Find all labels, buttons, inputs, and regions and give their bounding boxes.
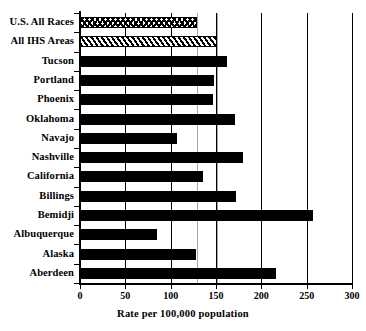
plot-area [80,13,352,283]
x-tick-50 [125,284,126,289]
y-tick-3 [74,71,79,72]
x-tick-label-0: 0 [60,290,100,301]
x-tick-label-300: 300 [332,290,366,301]
y-tick-0 [74,13,79,14]
y-axis-category-labels: U.S. All RacesAll IHS AreasTucsonPortlan… [0,13,78,283]
x-tick-label-150: 150 [196,290,236,301]
gridline-200 [261,13,262,283]
x-tick-100 [171,284,172,289]
reference-line-151 [217,13,218,283]
bar-aberdeen [80,268,276,279]
y-label-nashville: Nashville [0,152,74,163]
x-tick-250 [307,284,308,289]
x-tick-0 [80,284,81,289]
y-label-u-s-all-races: U.S. All Races [0,17,74,28]
y-tick-12 [74,244,79,245]
x-tick-label-50: 50 [105,290,145,301]
y-label-albuquerque: Albuquerque [0,229,74,240]
gridline-100 [171,13,172,283]
x-tick-label-100: 100 [151,290,191,301]
y-tick-4 [74,90,79,91]
bar-albuquerque [80,229,157,240]
y-label-alaska: Alaska [0,249,74,260]
bar-portland [80,75,214,86]
y-tick-11 [74,225,79,226]
y-tick-7 [74,148,79,149]
bar-bemidji [80,210,313,221]
x-tick-200 [261,284,262,289]
y-label-california: California [0,171,74,182]
y-label-navajo: Navajo [0,133,74,144]
bar-billings [80,191,236,202]
y-tick-8 [74,167,79,168]
x-tick-label-250: 250 [287,290,327,301]
gridline-250 [307,13,308,283]
bar-chart: U.S. All RacesAll IHS AreasTucsonPortlan… [0,0,366,331]
gridline-300 [352,13,353,283]
bar-nashville [80,152,243,163]
y-label-phoenix: Phoenix [0,94,74,105]
y-label-tucson: Tucson [0,56,74,67]
bar-california [80,171,203,182]
y-tick-end [74,283,79,284]
x-tick-label-200: 200 [241,290,281,301]
y-axis-line [79,11,81,285]
x-tick-150 [216,284,217,289]
bar-navajo [80,133,177,144]
bar-u-s-all-races [80,17,197,28]
bar-tucson [80,56,227,67]
y-tick-5 [74,109,79,110]
y-tick-9 [74,187,79,188]
y-tick-13 [74,264,79,265]
x-axis-title: Rate per 100,000 population [0,308,366,319]
bar-alaska [80,249,196,260]
y-tick-10 [74,206,79,207]
y-tick-2 [74,52,79,53]
y-label-aberdeen: Aberdeen [0,268,74,279]
reference-line-129 [197,13,198,283]
y-tick-1 [74,32,79,33]
y-label-portland: Portland [0,75,74,86]
y-label-billings: Billings [0,191,74,202]
y-label-bemidji: Bemidji [0,210,74,221]
y-label-all-ihs-areas: All IHS Areas [0,36,74,47]
y-label-oklahoma: Oklahoma [0,114,74,125]
bar-oklahoma [80,114,235,125]
x-tick-300 [352,284,353,289]
gridline-50 [125,13,126,283]
y-tick-6 [74,129,79,130]
bar-all-ihs-areas [80,36,217,47]
bar-phoenix [80,94,213,105]
